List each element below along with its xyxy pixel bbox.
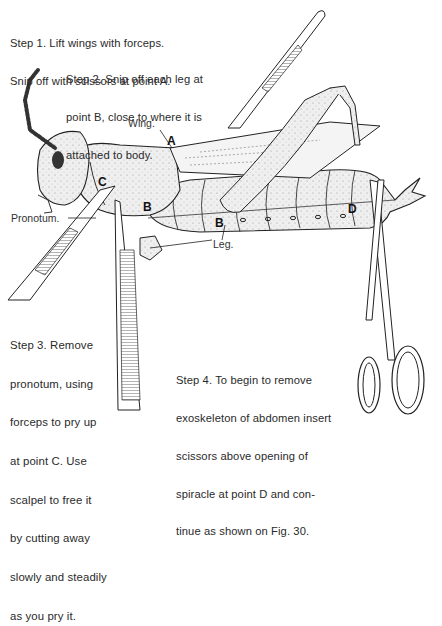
step2-text: Step 2. Snip off each leg at point B, cl… — [66, 48, 203, 174]
point-b1: B — [143, 200, 152, 214]
eye — [52, 151, 64, 169]
step3-text: Step 3. Remove pronotum, using forceps t… — [10, 313, 107, 626]
scalpel — [115, 200, 140, 410]
leg-label: Leg. — [213, 238, 233, 250]
point-c: C — [98, 175, 107, 189]
pronotum-label: Pronotum. — [11, 212, 59, 224]
wing-label: Wing. — [128, 117, 155, 129]
abdomen — [148, 170, 425, 232]
point-a: A — [167, 134, 176, 148]
point-d: D — [348, 202, 357, 216]
step4-text: Step 4. To begin to remove exoskeleton o… — [176, 349, 331, 551]
point-b2: B — [215, 216, 224, 230]
